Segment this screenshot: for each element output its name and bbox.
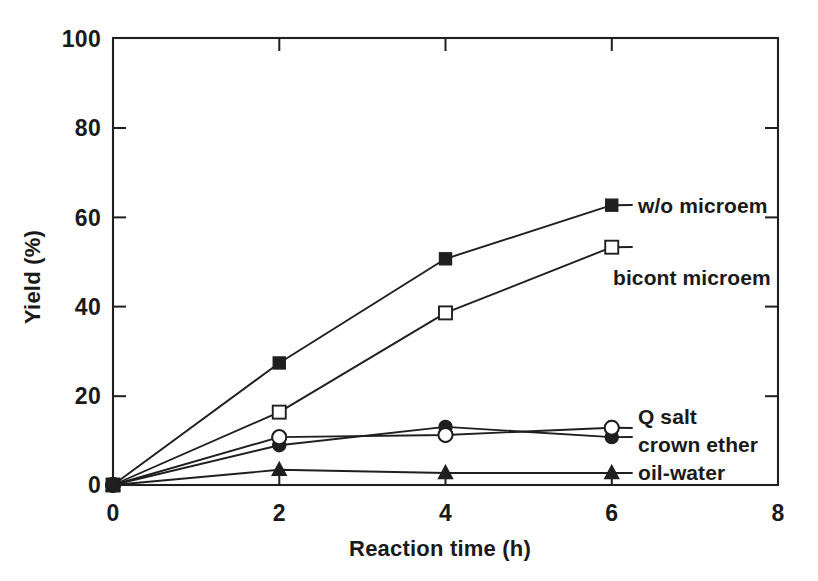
series-label-crown-ether: crown ether [638,433,758,456]
series-bicont-microem [107,241,619,492]
data-point-marker [440,253,452,265]
y-tick-label-80: 80 [75,115,101,141]
data-point-marker [605,465,619,478]
y-tick-label-60: 60 [75,205,101,231]
chart-figure: 0 20 40 60 80 100 0 2 4 6 8 Reaction tim… [0,0,818,581]
x-axis-ticks-top [279,38,612,51]
y-tick-labels: 0 20 40 60 80 100 [62,26,101,498]
data-point-marker [605,241,618,254]
data-point-marker [107,479,119,491]
series-label-crown-ether-group: crown ether [638,433,758,456]
series-label-w-o-microem-group: w/o microem [612,194,767,217]
series-label-q-salt-group: Q salt [638,405,697,428]
y-axis-title: Yield (%) [20,230,45,324]
series-label-q-salt: Q salt [638,405,697,428]
data-point-marker [273,406,286,419]
yield-vs-reaction-time-chart: 0 20 40 60 80 100 0 2 4 6 8 Reaction tim… [0,0,818,581]
data-point-marker [439,428,453,442]
series-markers-oil-water [106,462,619,490]
data-point-marker [273,357,285,369]
x-tick-label-4: 4 [439,500,452,526]
series-label-w-o-microem: w/o microem [637,194,767,217]
series-line-q-salt [113,427,612,485]
data-point-marker [272,462,286,475]
series-oil-water [106,462,619,490]
y-tick-label-100: 100 [62,26,101,52]
y-axis-ticks [113,128,126,396]
series-label-oil-water: oil-water [638,461,725,484]
series-markers-w-o-microem [107,199,618,491]
x-tick-label-2: 2 [273,500,286,526]
x-tick-label-0: 0 [106,500,119,526]
data-point-marker [605,421,619,435]
y-axis-ticks-right [765,128,778,396]
series-label-bicont-microem-group: bicont microem [613,266,771,289]
series-line-w-o-microem [113,205,612,485]
y-tick-label-40: 40 [75,294,101,320]
series-label-oil-water-group: oil-water [638,461,725,484]
data-point-marker [439,306,452,319]
y-tick-label-20: 20 [75,383,101,409]
data-point-marker [272,430,286,444]
y-tick-label-0: 0 [88,472,101,498]
x-tick-label-6: 6 [605,500,618,526]
x-tick-label-8: 8 [771,500,784,526]
x-axis-title: Reaction time (h) [349,536,531,561]
series-w-o-microem [107,199,618,491]
series-label-bicont-microem: bicont microem [613,266,771,289]
series-line-bicont-microem [113,247,612,485]
x-tick-labels: 0 2 4 6 8 [106,500,784,526]
series-line-oil-water [113,470,612,485]
